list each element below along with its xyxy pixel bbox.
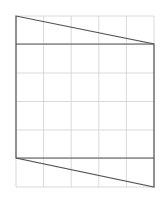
- background-grid: [16, 16, 154, 187]
- grid-diagram: [0, 0, 163, 203]
